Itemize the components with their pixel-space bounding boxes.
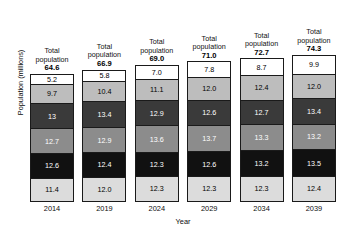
bar-stack[interactable]: 8.712.412.713.313.212.3 <box>240 58 284 202</box>
bar-stack[interactable]: 9.912.013.413.213.512.4 <box>292 55 336 202</box>
bar-total-header: Totalpopulation74.3 <box>292 28 336 54</box>
bar-segment-value: 12.0 <box>307 83 321 90</box>
bar-segment-value: 12.9 <box>97 137 111 144</box>
bar-segment-value: 8.7 <box>257 64 267 71</box>
bar-segment-value: 12.3 <box>150 185 164 192</box>
bar-segment[interactable]: 12.6 <box>188 152 230 177</box>
bar-segment[interactable]: 12.0 <box>293 75 335 98</box>
bar-segment[interactable]: 13.2 <box>293 125 335 151</box>
bar-segment[interactable]: 12.9 <box>83 128 125 153</box>
bar-column: Totalpopulation71.07.812.012.613.712.612… <box>187 18 231 202</box>
bar-segment[interactable]: 11.1 <box>136 80 178 102</box>
bar-segment[interactable]: 5.8 <box>83 71 125 82</box>
bar-total-header: Totalpopulation66.9 <box>82 43 126 69</box>
x-axis-tick-label: 2039 <box>292 204 336 213</box>
bar-segment-value: 13.2 <box>255 160 269 167</box>
bar-column: Totalpopulation64.65.29.71312.712.611.4 <box>30 18 74 202</box>
bar-segment-value: 9.9 <box>309 61 319 68</box>
bar-segment-value: 13.7 <box>202 135 216 142</box>
bar-segment-value: 12.4 <box>97 161 111 168</box>
bar-segment-value: 13 <box>48 113 56 120</box>
bar-segment[interactable]: 12.4 <box>293 177 335 201</box>
bar-segment[interactable]: 12.4 <box>241 76 283 100</box>
bar-segment[interactable]: 10.4 <box>83 82 125 102</box>
bar-segment[interactable]: 12.3 <box>136 153 178 177</box>
bar-segment[interactable]: 13.4 <box>293 99 335 125</box>
x-axis-tick-row: 201420192024202920342039 <box>30 204 336 213</box>
bar-segment[interactable]: 12.0 <box>188 78 230 101</box>
bar-segment-value: 9.7 <box>47 90 57 97</box>
bar-segment-value: 13.4 <box>307 108 321 115</box>
bar-segment-value: 5.2 <box>47 76 57 83</box>
bar-segment[interactable]: 9.7 <box>31 85 73 104</box>
bar-total-header: Totalpopulation71.0 <box>187 35 231 61</box>
bar-segment[interactable]: 12.3 <box>241 177 283 201</box>
bar-segment[interactable]: 12.7 <box>241 101 283 126</box>
bar-segment[interactable]: 12.6 <box>31 154 73 179</box>
bar-segment-value: 11.1 <box>150 86 163 93</box>
bar-segment-value: 13.3 <box>255 134 269 141</box>
bar-segment-value: 12.4 <box>255 84 269 91</box>
bar-column: Totalpopulation66.95.810.413.412.912.412… <box>82 18 126 202</box>
bar-segment[interactable]: 12.0 <box>83 178 125 201</box>
bar-stack[interactable]: 7.812.012.613.712.612.3 <box>187 61 231 202</box>
bar-total-value: 74.3 <box>292 45 336 54</box>
bar-segment-value: 7.8 <box>204 66 214 73</box>
bar-segment[interactable]: 13.3 <box>241 125 283 151</box>
bar-total-value: 71.0 <box>187 52 231 61</box>
bar-column: Totalpopulation69.07.011.112.913.612.312… <box>135 18 179 202</box>
bar-stack[interactable]: 5.810.413.412.912.412.0 <box>82 70 126 203</box>
plot-area: Totalpopulation64.65.29.71312.712.611.4T… <box>30 18 336 202</box>
bar-segment[interactable]: 12.9 <box>136 101 178 126</box>
bar-segment[interactable]: 12.7 <box>31 129 73 154</box>
bar-segment[interactable]: 13 <box>31 104 73 129</box>
bar-segment-value: 12.7 <box>45 138 59 145</box>
bar-segment-value: 12.7 <box>255 109 269 116</box>
bar-segment[interactable]: 13.4 <box>83 102 125 128</box>
bar-segment[interactable]: 13.2 <box>241 151 283 177</box>
bar-segment[interactable]: 12.6 <box>188 101 230 126</box>
bar-segment-value: 13.5 <box>307 160 321 167</box>
x-axis-tick-label: 2034 <box>240 204 284 213</box>
bar-segment-value: 7.0 <box>152 69 162 76</box>
bar-total-header: Totalpopulation64.6 <box>30 47 74 73</box>
bar-segment-value: 12.3 <box>202 185 216 192</box>
y-axis-title: Population (millions) <box>16 13 25 153</box>
bar-segment[interactable]: 12.3 <box>136 177 178 201</box>
bar-segment-value: 12.0 <box>97 186 111 193</box>
bar-segment-value: 12.9 <box>150 110 164 117</box>
bar-stack[interactable]: 7.011.112.913.612.312.3 <box>135 65 179 202</box>
bar-total-header: Totalpopulation72.7 <box>240 32 284 58</box>
bar-segment[interactable]: 7.8 <box>188 62 230 77</box>
bar-segment[interactable]: 9.9 <box>293 56 335 75</box>
bar-segment[interactable]: 8.7 <box>241 59 283 76</box>
x-axis-tick-label: 2029 <box>187 204 231 213</box>
bar-column: Totalpopulation72.78.712.412.713.313.212… <box>240 18 284 202</box>
bar-segment-value: 10.4 <box>97 88 111 95</box>
bar-segment-value: 12.6 <box>45 162 59 169</box>
bar-total-value: 66.9 <box>82 60 126 69</box>
bar-segment[interactable]: 7.0 <box>136 66 178 80</box>
bar-segment-value: 12.6 <box>202 109 216 116</box>
bar-segment[interactable]: 13.7 <box>188 126 230 153</box>
x-axis-tick-label: 2014 <box>30 204 74 213</box>
bar-segment[interactable]: 5.2 <box>31 75 73 85</box>
stacked-bar-chart: Population (millions) Totalpopulation64.… <box>0 0 340 235</box>
bar-total-value: 72.7 <box>240 49 284 58</box>
bar-segment[interactable]: 13.6 <box>136 126 178 153</box>
bar-segment-value: 13.2 <box>307 133 321 140</box>
bar-segment-value: 11.4 <box>45 186 58 193</box>
bar-segment[interactable]: 12.4 <box>83 153 125 177</box>
bar-segment[interactable]: 11.4 <box>31 179 73 201</box>
x-axis-tick-label: 2024 <box>135 204 179 213</box>
bar-segment-value: 12.6 <box>202 161 216 168</box>
bar-segment[interactable]: 13.5 <box>293 150 335 176</box>
bar-total-header: Totalpopulation69.0 <box>135 38 179 64</box>
bar-segment-value: 12.4 <box>307 185 321 192</box>
bar-segment-value: 13.4 <box>97 111 111 118</box>
bar-segment-value: 12.3 <box>255 185 269 192</box>
bar-segment-value: 5.8 <box>99 72 109 79</box>
x-axis-tick-label: 2019 <box>82 204 126 213</box>
bar-stack[interactable]: 5.29.71312.712.611.4 <box>30 74 74 202</box>
bar-segment[interactable]: 12.3 <box>188 177 230 201</box>
